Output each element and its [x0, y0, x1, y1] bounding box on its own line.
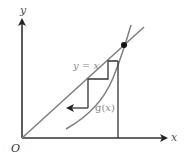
g-curve-label: g(x) [95, 102, 115, 113]
x-axis-label: x [171, 131, 178, 144]
g-curve [66, 25, 131, 129]
fixed-point-dot [121, 42, 127, 48]
identity-line-label: y = x [72, 60, 99, 71]
y-axis-label: y [19, 4, 27, 17]
origin-label: O [11, 142, 20, 155]
diagram-canvas: y x O y = x g(x) [0, 0, 188, 159]
cobweb-diagram: y x O y = x g(x) [0, 0, 188, 159]
